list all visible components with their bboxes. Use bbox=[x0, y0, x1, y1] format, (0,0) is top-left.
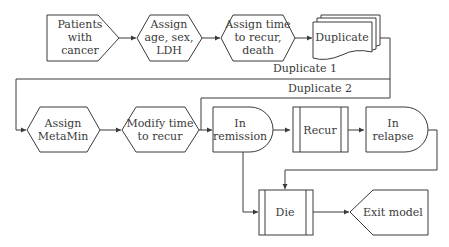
svg-text:Exit model: Exit model bbox=[363, 206, 423, 219]
duplicate-1-label: Duplicate 1 bbox=[273, 62, 337, 75]
svg-text:In: In bbox=[234, 117, 245, 130]
svg-text:MetaMin: MetaMin bbox=[38, 130, 89, 143]
svg-text:relapse: relapse bbox=[372, 130, 413, 143]
node-recur: Recur bbox=[293, 107, 348, 152]
svg-text:Assign: Assign bbox=[150, 18, 188, 31]
flowchart: Duplicate 1 Duplicate 2 Patients with ca… bbox=[0, 0, 449, 247]
svg-text:age, sex,: age, sex, bbox=[145, 31, 194, 44]
svg-text:with: with bbox=[68, 31, 92, 44]
svg-text:Modify time: Modify time bbox=[126, 117, 193, 130]
node-modify-time-to-recur: Modify time to recur bbox=[122, 107, 199, 152]
svg-text:In: In bbox=[387, 117, 398, 130]
node-duplicate: Duplicate bbox=[313, 15, 380, 59]
svg-text:to recur,: to recur, bbox=[234, 31, 281, 44]
svg-text:Assign time: Assign time bbox=[224, 18, 290, 31]
svg-text:Patients: Patients bbox=[57, 18, 102, 31]
edge-remission-to-die bbox=[243, 152, 258, 212]
svg-text:death: death bbox=[242, 44, 274, 57]
svg-text:cancer: cancer bbox=[61, 44, 99, 57]
node-die: Die bbox=[259, 190, 313, 235]
svg-text:LDH: LDH bbox=[156, 44, 182, 57]
svg-text:remission: remission bbox=[213, 130, 267, 143]
duplicate-2-label: Duplicate 2 bbox=[288, 82, 352, 95]
svg-text:Die: Die bbox=[276, 206, 295, 219]
node-assign-metamin: Assign MetaMin bbox=[27, 107, 100, 152]
svg-text:Recur: Recur bbox=[303, 124, 337, 137]
svg-text:to recur: to recur bbox=[138, 130, 184, 143]
node-in-relapse: In relapse bbox=[366, 107, 428, 152]
svg-text:Duplicate: Duplicate bbox=[315, 31, 369, 44]
node-assign-age-sex-ldh: Assign age, sex, LDH bbox=[137, 15, 202, 61]
node-patients-with-cancer: Patients with cancer bbox=[47, 15, 119, 61]
node-exit-model: Exit model bbox=[350, 190, 428, 235]
node-in-remission: In remission bbox=[213, 107, 273, 152]
node-assign-time-to-recur: Assign time to recur, death bbox=[221, 15, 295, 61]
svg-text:Assign: Assign bbox=[44, 117, 82, 130]
